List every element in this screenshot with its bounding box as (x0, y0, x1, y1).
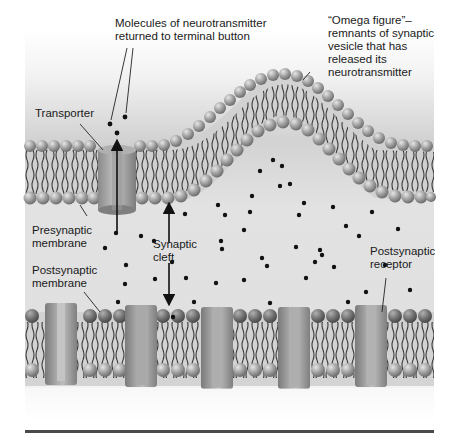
label-transporter: Transporter (35, 107, 94, 120)
receptor-3 (201, 307, 233, 389)
label-synaptic-cleft: Synaptic cleft (153, 238, 197, 264)
receptor-5 (355, 305, 387, 387)
receptor-4 (278, 307, 310, 389)
receptor-1 (45, 303, 77, 385)
label-postsynaptic-receptor: Postsynaptic receptor (370, 245, 435, 271)
bottom-divider (25, 430, 434, 433)
label-omega-figure: “Omega figure”– remnants of synaptic ves… (328, 14, 434, 79)
label-molecules-returned: Molecules of neurotransmitter returned t… (115, 17, 266, 43)
label-presynaptic-membrane: Presynaptic membrane (32, 224, 92, 250)
receptor-2 (125, 305, 157, 387)
label-postsynaptic-membrane: Postsynaptic membrane (32, 264, 97, 290)
